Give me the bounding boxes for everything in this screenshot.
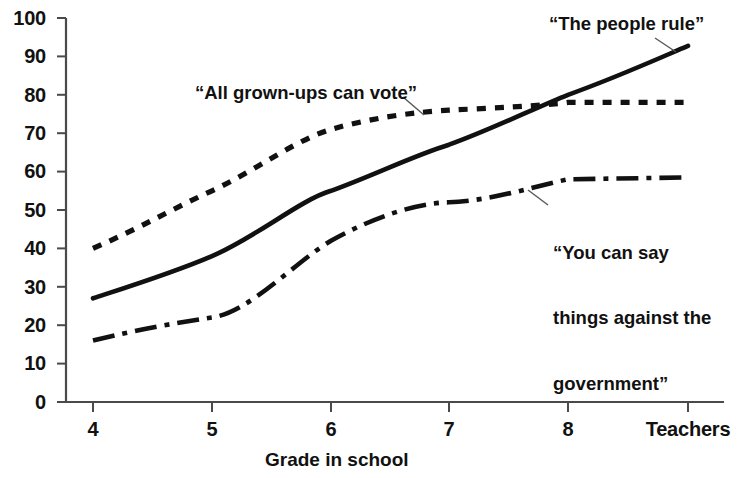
y-tick-label-90: 90 <box>0 45 46 68</box>
y-tick-label-60: 60 <box>0 160 46 183</box>
y-tick-label-20: 20 <box>0 314 46 337</box>
annotation-grownups-vote: “All grown-ups can vote” <box>195 82 417 104</box>
x-tick-label-grade-5: 5 <box>192 418 232 441</box>
x-tick-label-grade-6: 6 <box>311 418 351 441</box>
annotation-say-things-line-3: government” <box>553 373 711 395</box>
y-tick-label-50: 50 <box>0 199 46 222</box>
annotation-say-things: “You can say things against the governme… <box>553 198 711 438</box>
leader-line-say-things <box>528 190 548 205</box>
y-tick-label-100: 100 <box>0 7 46 30</box>
x-tick-label-grade-4: 4 <box>73 418 113 441</box>
leader-line-people-rule <box>655 38 676 52</box>
chart-container: 100 90 80 70 60 50 40 30 20 10 0 4 5 6 7… <box>0 0 737 478</box>
annotation-people-rule: “The people rule” <box>549 13 704 35</box>
annotation-say-things-line-1: “You can say <box>553 242 711 264</box>
y-axis-ticks <box>57 18 66 402</box>
y-tick-label-10: 10 <box>0 352 46 375</box>
y-tick-label-0: 0 <box>0 391 46 414</box>
x-axis-title: Grade in school <box>265 449 409 471</box>
y-tick-label-80: 80 <box>0 84 46 107</box>
y-tick-label-30: 30 <box>0 276 46 299</box>
x-tick-label-grade-7: 7 <box>429 418 469 441</box>
annotation-say-things-line-2: things against the <box>553 307 711 329</box>
y-tick-label-70: 70 <box>0 122 46 145</box>
y-tick-label-40: 40 <box>0 237 46 260</box>
